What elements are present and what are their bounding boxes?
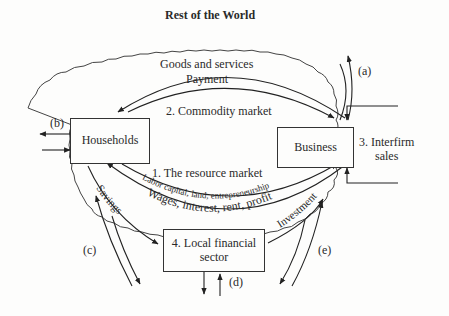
leakage-d-label: (d) <box>229 275 243 290</box>
diagram-title: Rest of the World <box>165 8 255 23</box>
interfirm-line-2: sales <box>359 149 414 163</box>
financial-sector-node: 4. Local financial sector <box>163 229 265 272</box>
circular-flow-diagram: Labor capital, land, entrepreneurship Wa… <box>0 0 449 316</box>
financial-line-2: sector <box>200 251 229 264</box>
svg-text:Savings: Savings <box>94 183 125 217</box>
leakage-c-label: (c) <box>83 243 96 258</box>
commodity-market-label: 2. Commodity market <box>166 104 272 119</box>
leakage-b-label: (b) <box>50 116 64 131</box>
goods-label: Goods and services <box>160 57 253 72</box>
leakage-e-label: (e) <box>318 243 331 258</box>
leakage-a-label: (a) <box>358 64 371 79</box>
resource-market-label: 1. The resource market <box>152 166 262 181</box>
savings-label: Savings <box>94 183 125 217</box>
payment-label: Payment <box>186 72 228 87</box>
interfirm-line-1: 3. Interfirm <box>359 135 414 149</box>
households-node: Households <box>70 118 150 164</box>
interfirm-sales-label: 3. Interfirm sales <box>359 135 414 164</box>
financial-line-1: 4. Local financial <box>172 237 256 250</box>
business-node: Business <box>277 127 354 168</box>
